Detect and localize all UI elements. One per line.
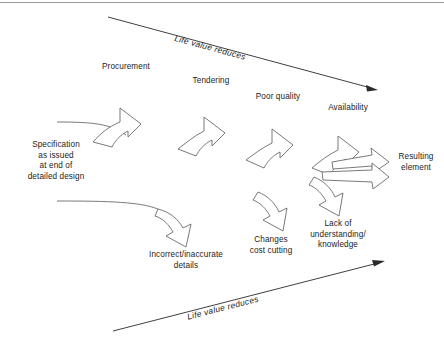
arrow-lack-of-understanding [309,177,343,216]
stage-label-procurement: Procurement [86,62,166,73]
arrow-poor-quality [246,129,293,168]
diagram-canvas: Specification as issued at end of detail… [0,0,444,346]
stage-label-tendering: Tendering [175,76,247,87]
result-label: Resulting element [388,152,444,173]
stage-label-poor-quality: Poor quality [240,92,316,103]
source-label: Specification as issued at end of detail… [6,140,106,182]
arrow-incorrect-details [155,209,191,247]
stage-label-changes-cost-cutting: Changes cost cutting [240,235,302,256]
stage-label-availability: Availability [310,103,386,114]
stage-label-lack-of-understanding: Lack of understanding/ knowledge [300,219,376,251]
lower-spine [57,201,158,209]
stage-label-incorrect-details: Incorrect/inaccurate details [128,250,244,271]
arrow-changes-cost-cutting [253,192,287,231]
arrow-tendering [178,117,225,156]
